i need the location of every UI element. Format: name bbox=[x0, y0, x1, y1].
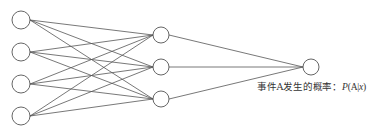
input-neuron bbox=[12, 75, 30, 93]
output-neuron bbox=[303, 59, 319, 75]
probability-formula: P(A|x) bbox=[342, 82, 366, 92]
connection-edge bbox=[30, 35, 153, 52]
output-probability-label: 事件A发生的概率：P(A|x) bbox=[257, 79, 366, 93]
neural-network-diagram bbox=[0, 0, 387, 133]
connection-edge bbox=[30, 20, 153, 35]
connection-edge bbox=[30, 35, 153, 84]
input-neuron bbox=[12, 11, 30, 29]
hidden-neuron bbox=[153, 91, 169, 107]
connection-edge bbox=[169, 35, 303, 67]
connection-edge bbox=[30, 99, 153, 116]
input-neuron bbox=[12, 43, 30, 61]
hidden-neuron bbox=[153, 59, 169, 75]
neurons bbox=[12, 11, 319, 125]
input-neuron bbox=[12, 107, 30, 125]
connection-edge bbox=[30, 67, 153, 116]
label-text: 事件A发生的概率： bbox=[257, 81, 342, 92]
hidden-neuron bbox=[153, 27, 169, 43]
connection-edge bbox=[30, 35, 153, 116]
